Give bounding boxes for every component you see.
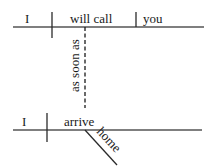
subordinate-clause: I arrive home (13, 113, 202, 165)
sentence-diagram: I will call you as soon as I arrive home (0, 0, 204, 167)
main-verb: will call (70, 11, 113, 26)
main-subject: I (25, 11, 29, 26)
sub-subject: I (22, 114, 26, 129)
sub-verb: arrive (64, 114, 95, 129)
connector: as soon as (67, 27, 85, 108)
connector-label: as soon as (67, 39, 82, 92)
main-object: you (143, 11, 163, 26)
main-clause: I will call you (13, 11, 204, 38)
sub-modifier: home (94, 124, 125, 156)
